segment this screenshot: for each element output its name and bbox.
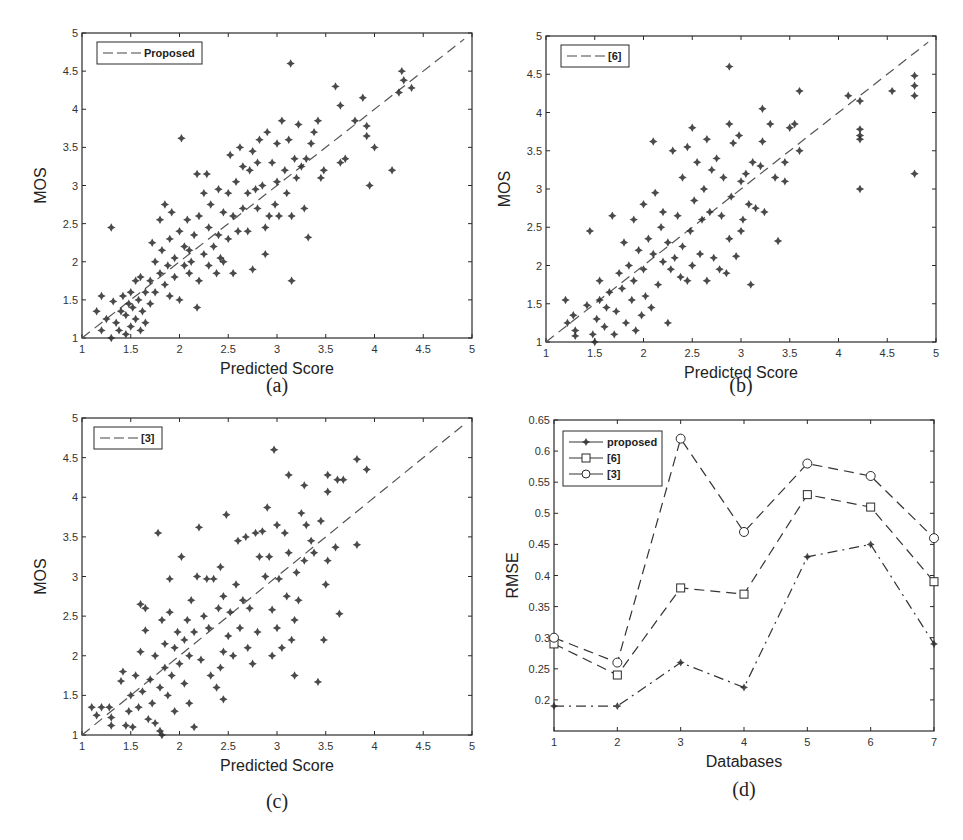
star-marker-icon xyxy=(649,137,657,145)
star-marker-icon xyxy=(647,303,655,311)
star-marker-icon xyxy=(224,235,232,243)
star-marker-icon xyxy=(856,135,864,143)
star-marker-icon xyxy=(251,185,259,193)
star-marker-icon xyxy=(229,269,237,277)
star-marker-icon xyxy=(168,671,176,679)
star-marker-icon xyxy=(742,170,750,178)
star-marker-icon xyxy=(268,158,276,166)
star-marker-icon xyxy=(625,261,633,269)
y-tick-label: 1.5 xyxy=(63,294,78,306)
y-tick-label: 3 xyxy=(536,183,542,195)
star-marker-icon xyxy=(224,189,232,197)
star-marker-icon xyxy=(844,91,852,99)
star-marker-icon xyxy=(686,227,694,235)
star-marker-icon xyxy=(187,596,195,604)
series-line-6 xyxy=(554,495,934,675)
star-marker-icon xyxy=(287,277,295,285)
star-marker-icon xyxy=(669,147,677,155)
star-marker-icon xyxy=(283,592,291,600)
y-tick-label: 3 xyxy=(72,180,78,192)
square-marker-icon xyxy=(582,454,590,462)
star-marker-icon xyxy=(141,626,149,634)
star-marker-icon xyxy=(651,189,659,197)
star-marker-icon xyxy=(193,170,201,178)
star-marker-icon xyxy=(285,136,293,144)
star-marker-icon xyxy=(170,644,178,652)
star-marker-icon xyxy=(170,273,178,281)
star-marker-icon xyxy=(290,616,298,624)
x-tick-label: 4.5 xyxy=(880,347,895,359)
y-tick-label: 0.45 xyxy=(529,538,550,550)
star-marker-icon xyxy=(561,296,569,304)
legend-label: [3] xyxy=(141,432,155,444)
star-marker-icon xyxy=(273,139,281,147)
star-marker-icon xyxy=(177,552,185,560)
y-tick-label: 0.55 xyxy=(529,476,550,488)
star-marker-icon xyxy=(148,699,156,707)
star-marker-icon xyxy=(888,87,896,95)
star-marker-icon xyxy=(197,656,205,664)
star-marker-icon xyxy=(618,284,626,292)
star-marker-icon xyxy=(339,476,347,484)
star-marker-icon xyxy=(297,509,305,517)
star-marker-icon xyxy=(278,644,286,652)
x-tick-label: 7 xyxy=(931,736,937,748)
y-tick-label: 3.5 xyxy=(527,145,542,157)
y-tick-label: 3.5 xyxy=(63,141,78,153)
x-tick-label: 4 xyxy=(371,740,377,752)
star-marker-icon xyxy=(370,143,378,151)
circle-marker-icon xyxy=(550,633,559,642)
star-marker-icon xyxy=(222,510,230,518)
star-marker-icon xyxy=(637,311,645,319)
x-tick-label: 3.5 xyxy=(782,347,797,359)
scatter-plot-b: 11.522.533.544.5511.522.533.544.55Predic… xyxy=(496,30,939,397)
y-tick-label: 0.35 xyxy=(529,601,550,613)
star-marker-icon xyxy=(756,162,764,170)
star-marker-icon xyxy=(690,196,698,204)
star-marker-icon xyxy=(273,177,281,185)
star-marker-icon xyxy=(307,537,315,545)
star-marker-icon xyxy=(173,628,181,636)
star-marker-icon xyxy=(236,143,244,151)
y-tick-label: 4.5 xyxy=(63,65,78,77)
star-marker-icon xyxy=(363,465,371,473)
star-marker-icon xyxy=(285,471,293,479)
x-tick-label: 1.5 xyxy=(123,343,138,355)
circle-marker-icon xyxy=(866,471,875,480)
star-marker-icon xyxy=(248,659,256,667)
star-marker-icon xyxy=(678,242,686,250)
star-marker-icon xyxy=(737,177,745,185)
star-marker-icon xyxy=(320,166,328,174)
circle-marker-icon xyxy=(803,459,812,468)
star-marker-icon xyxy=(641,292,649,300)
star-marker-icon xyxy=(151,288,159,296)
star-marker-icon xyxy=(795,147,803,155)
star-marker-icon xyxy=(244,644,252,652)
star-marker-icon xyxy=(209,575,217,583)
reference-line xyxy=(82,39,464,338)
star-marker-icon xyxy=(310,128,318,136)
y-tick-label: 4.5 xyxy=(527,68,542,80)
x-tick-label: 5 xyxy=(469,343,475,355)
y-tick-label: 1 xyxy=(536,336,542,348)
star-marker-icon xyxy=(219,648,227,656)
star-marker-icon xyxy=(146,299,154,307)
star-marker-icon xyxy=(119,292,127,300)
y-axis-label: RMSE xyxy=(504,552,521,598)
star-marker-icon xyxy=(803,553,811,561)
star-marker-icon xyxy=(591,338,599,346)
star-marker-icon xyxy=(550,702,558,710)
y-tick-label: 2.5 xyxy=(527,221,542,233)
x-tick-label: 4 xyxy=(835,347,841,359)
star-marker-icon xyxy=(365,181,373,189)
star-marker-icon xyxy=(353,541,361,549)
star-marker-icon xyxy=(671,254,679,262)
star-marker-icon xyxy=(203,170,211,178)
star-marker-icon xyxy=(156,683,164,691)
y-tick-label: 2.5 xyxy=(63,610,78,622)
star-marker-icon xyxy=(177,134,185,142)
panel-caption: (b) xyxy=(729,374,752,397)
circle-marker-icon xyxy=(613,658,622,667)
legend: proposed[6][3] xyxy=(563,431,662,486)
star-marker-icon xyxy=(205,223,213,231)
